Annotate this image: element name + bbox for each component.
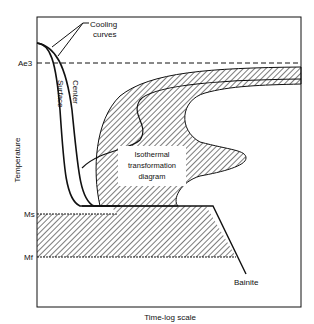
ae3-tick-label: Ae3 [18, 59, 33, 68]
itt-label-1: Isothermal [134, 150, 169, 159]
ms-tick-label: Ms [24, 210, 35, 219]
cooling-curves-label-1: Cooling [90, 20, 117, 29]
cooling-diagram: Cooling curves Surface Center Isothermal… [0, 0, 314, 324]
cooling-curves-label-2: curves [93, 30, 117, 39]
martensite-band [37, 206, 236, 257]
mf-tick-label: Mf [24, 253, 34, 262]
itt-label-2: transformation [128, 161, 176, 170]
bainite-label: Bainite [234, 278, 259, 287]
center-label: Center [71, 80, 80, 104]
x-axis-label: Time-log scale [144, 313, 196, 322]
y-axis-label: Temperature [13, 137, 22, 182]
surface-label: Surface [56, 80, 65, 108]
itt-label-3: diagram [138, 172, 165, 181]
